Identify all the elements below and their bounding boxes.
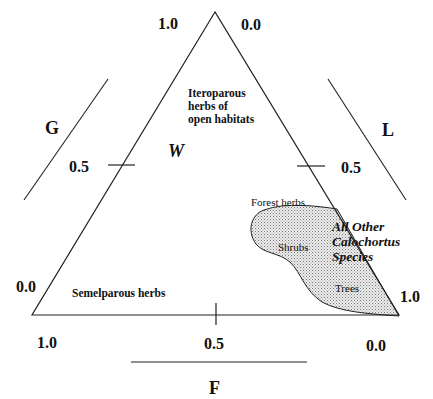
g-tick-mid: 0.5	[69, 158, 89, 175]
calochortus-label-line3: Species	[332, 249, 373, 264]
shrubs-label: Shrubs	[278, 241, 309, 253]
f-tick-right: 0.0	[366, 337, 386, 354]
l-tick-bottom: 1.0	[400, 288, 420, 305]
g-tick-top: 1.0	[158, 15, 178, 32]
iteroparous-label-line1: Iteroparous	[188, 87, 246, 100]
l-axis-line	[328, 79, 406, 200]
f-axis-label: F	[209, 378, 220, 398]
trees-label: Trees	[335, 282, 359, 294]
ternary-diagram: 1.0 0.0 G L F 0.5 0.5 0.5 0.0 1.0 1.0 0.…	[0, 0, 433, 399]
iteroparous-label-line2: herbs of	[188, 100, 228, 112]
g-axis-line	[24, 79, 108, 200]
iteroparous-label-line3: open habitats	[188, 113, 255, 126]
calochortus-label-line2: Calochortus	[332, 234, 400, 249]
forest-herbs-label: Forest herbs	[251, 196, 305, 208]
g-tick-bottom: 0.0	[16, 278, 36, 295]
g-axis-label: G	[45, 118, 59, 138]
f-tick-left: 1.0	[37, 334, 57, 351]
calochortus-label-line1: All Other	[331, 219, 385, 234]
w-label: W	[168, 141, 186, 161]
l-axis-label: L	[382, 120, 394, 140]
f-tick-mid: 0.5	[204, 335, 224, 352]
semelparous-label: Semelparous herbs	[72, 287, 166, 300]
l-tick-top: 0.0	[241, 16, 261, 33]
l-tick-mid: 0.5	[341, 159, 361, 176]
